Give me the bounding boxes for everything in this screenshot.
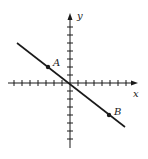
x-axis-arrow-icon [131, 81, 138, 86]
x-axis-label: x [133, 88, 139, 99]
point-a-marker [46, 65, 50, 69]
point-b-marker [107, 113, 111, 117]
y-axis-label: y [76, 10, 83, 21]
point-b-label: B [113, 106, 121, 117]
y-axis-arrow-icon [68, 13, 73, 20]
point-a-label: A [52, 57, 60, 68]
coordinate-plane: A B y x [0, 0, 148, 159]
